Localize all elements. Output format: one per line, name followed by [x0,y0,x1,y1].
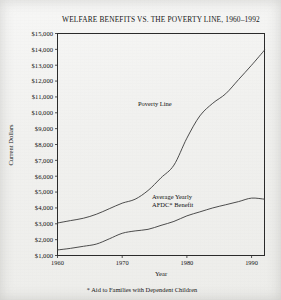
y-tick-label: $9,000 [35,125,54,132]
welfare-poverty-line-chart: WELFARE BENEFITS VS. THE POVERTY LINE, 1… [0,0,281,300]
y-tick-label: $10,000 [32,109,54,116]
y-tick-label: $13,000 [32,62,54,69]
x-axis-tick-labels: 1960197019801990 [51,259,258,266]
afdc-annotation-line1: Average Yearly [152,193,193,200]
y-tick-label: $6,000 [35,173,54,180]
y-tick-label: $3,000 [35,220,54,227]
plot-frame [58,34,265,256]
afdc-annotation-line2: AFDC* Benefit [152,201,194,208]
y-tick-label: $4,000 [35,204,54,211]
y-tick-label: $11,000 [32,93,54,100]
y-tick-label: $7,000 [35,157,54,164]
x-tick-label: 1970 [116,259,129,266]
y-tick-label: $14,000 [32,46,54,53]
x-tick-label: 1990 [245,259,258,266]
poverty-line-annotation: Poverty Line [138,100,172,107]
y-axis-label: Current Dollars [7,124,14,166]
y-axis-tick-labels: $1,000$2,000$3,000$4,000$5,000$6,000$7,0… [32,30,54,259]
x-tick-label: 1980 [180,259,193,266]
y-tick-label: $8,000 [35,141,54,148]
y-tick-label: $15,000 [32,30,54,37]
x-axis-label: Year [155,270,168,277]
y-tick-label: $5,000 [35,188,54,195]
x-tick-label: 1960 [51,259,64,266]
chart-footnote: * Aid to Families with Dependent Childre… [87,286,198,293]
chart-figure: WELFARE BENEFITS VS. THE POVERTY LINE, 1… [0,0,281,300]
y-tick-label: $12,000 [32,77,54,84]
chart-title: WELFARE BENEFITS VS. THE POVERTY LINE, 1… [62,15,260,24]
y-tick-label: $2,000 [35,236,54,243]
